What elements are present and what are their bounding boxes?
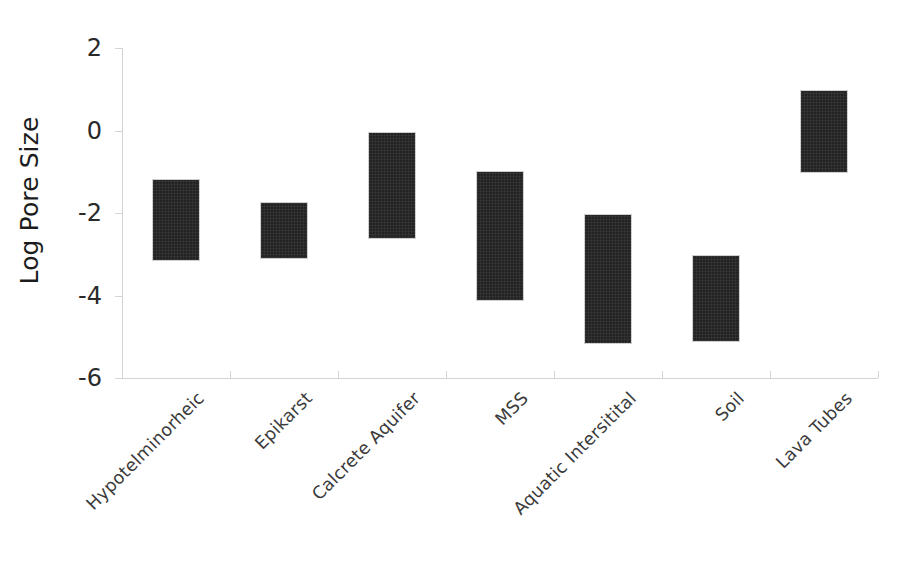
- x-category-label-0: Hypotelminorheic: [82, 388, 208, 514]
- y-tick-label-2: -2: [78, 199, 102, 227]
- bar-0: [153, 180, 199, 260]
- chart-figure: Log Pore Size 20-2-4-6 HypotelminorheicE…: [0, 0, 898, 577]
- x-category-label-6: Lava Tubes: [772, 388, 856, 472]
- x-category-label-1: Epikarst: [251, 388, 316, 453]
- x-tick-0: [122, 371, 123, 378]
- x-axis-line: [122, 378, 878, 379]
- y-tick-label-0: 2: [87, 34, 102, 62]
- y-tick-1: [115, 131, 122, 132]
- y-tick-label-4: -6: [78, 364, 102, 392]
- x-tick-5: [662, 371, 663, 378]
- x-tick-1: [230, 371, 231, 378]
- y-tick-label-3: -4: [78, 282, 102, 310]
- bar-2: [369, 133, 415, 238]
- x-category-label-4: Aquatic Intersitital: [510, 388, 641, 519]
- x-tick-7: [878, 371, 879, 378]
- x-tick-3: [446, 371, 447, 378]
- bar-5: [693, 256, 739, 341]
- x-category-label-3: MSS: [491, 388, 532, 429]
- plot-area: 20-2-4-6: [122, 48, 878, 378]
- y-axis-line: [122, 48, 123, 378]
- y-tick-3: [115, 296, 122, 297]
- y-tick-4: [115, 378, 122, 379]
- bar-3: [477, 172, 523, 300]
- y-tick-label-1: 0: [87, 117, 102, 145]
- x-category-label-2: Calcrete Aquifer: [308, 388, 424, 504]
- bar-6: [801, 91, 847, 171]
- y-axis-title: Log Pore Size: [0, 0, 60, 400]
- bar-4: [585, 215, 631, 343]
- x-tick-4: [554, 371, 555, 378]
- y-tick-0: [115, 48, 122, 49]
- x-tick-2: [338, 371, 339, 378]
- y-tick-2: [115, 213, 122, 214]
- y-axis-title-text: Log Pore Size: [16, 116, 45, 284]
- x-category-label-5: Soil: [711, 388, 748, 425]
- x-tick-6: [770, 371, 771, 378]
- bar-1: [261, 203, 307, 259]
